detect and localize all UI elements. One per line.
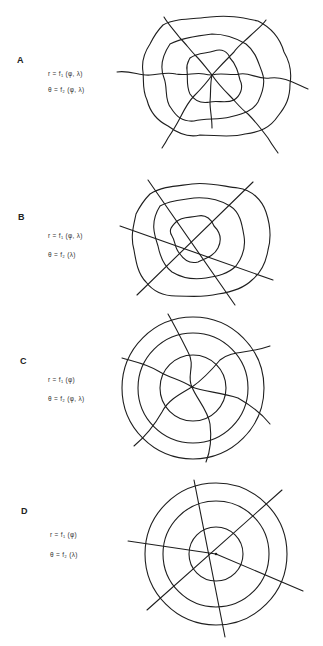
center-point-d (215, 553, 218, 556)
projection-diagrams (0, 0, 323, 646)
wavy-meridian-a-2 (164, 17, 278, 153)
wavy-meridian-a-3 (162, 20, 266, 148)
spiral-meridian-c-2 (192, 346, 270, 387)
diagram-c (122, 314, 270, 462)
diagram-a (117, 16, 308, 153)
wavy-ring-middle-a (162, 34, 264, 121)
spiral-meridian-c-3 (192, 387, 270, 424)
spiral-meridian-c-6 (122, 358, 192, 387)
spiral-meridian-c-4 (192, 387, 211, 462)
wavy-ring-middle-b (154, 198, 245, 279)
circle-middle-c (138, 333, 248, 443)
meridian-d-1 (194, 480, 225, 637)
spiral-meridian-c-5 (134, 387, 192, 446)
diagram-b (120, 180, 273, 305)
meridian-d-2 (147, 490, 282, 610)
diagram-d (128, 480, 303, 637)
spiral-meridian-c-1 (168, 314, 192, 387)
meridian-b-3 (120, 226, 273, 280)
